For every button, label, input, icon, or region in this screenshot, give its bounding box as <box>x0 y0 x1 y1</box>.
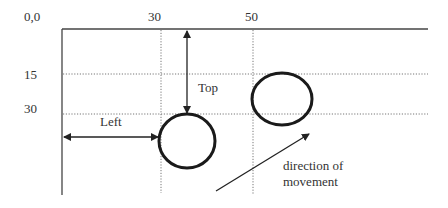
positioning-diagram: 0,0 30 50 15 30 Top Left direction of mo… <box>0 0 448 208</box>
element-moved-circle <box>252 73 312 125</box>
direction-label-line2: movement <box>283 174 338 189</box>
element-start-circle <box>159 114 215 168</box>
x-tick-30: 30 <box>148 9 161 24</box>
y-tick-15: 15 <box>24 67 37 82</box>
left-label: Left <box>100 114 122 129</box>
x-tick-50: 50 <box>245 9 258 24</box>
y-tick-30: 30 <box>24 101 37 116</box>
origin-label: 0,0 <box>24 9 40 24</box>
top-label: Top <box>198 80 218 95</box>
direction-label-line1: direction of <box>283 158 344 173</box>
